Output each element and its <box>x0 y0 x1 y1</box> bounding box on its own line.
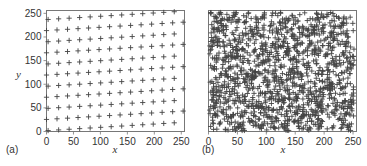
x-tick-label: 150 <box>119 136 136 147</box>
panel-a-y-ticks: 050100150200250 <box>25 8 47 137</box>
x-tick-label: 0 <box>44 136 50 147</box>
x-tick-label: 250 <box>345 136 362 147</box>
x-tick-label: 200 <box>316 136 333 147</box>
panel-a-label: (a) <box>6 144 18 155</box>
x-tick-label: 100 <box>92 136 109 147</box>
y-tick-label: 50 <box>30 102 42 113</box>
panel-a-x-axis-label: x <box>112 143 118 155</box>
panel-b-x-axis-label: x <box>280 143 286 155</box>
y-tick-label: 0 <box>36 126 42 137</box>
x-tick-label: 250 <box>173 136 190 147</box>
x-tick-label: 50 <box>68 136 80 147</box>
panel-b-scatter-random: 050100150200250 x (b) <box>202 10 362 155</box>
panel-a-y-axis-label: y <box>15 68 21 80</box>
y-tick-label: 250 <box>25 8 42 19</box>
y-tick-label: 100 <box>25 79 42 90</box>
y-tick-label: 150 <box>25 55 42 66</box>
panel-b-points <box>207 10 357 133</box>
panel-a-scatter-lattice: 050100150200250 050100150200250 y x (a) <box>6 8 190 155</box>
x-tick-label: 150 <box>287 136 304 147</box>
x-tick-label: 50 <box>232 136 244 147</box>
x-tick-label: 100 <box>258 136 275 147</box>
x-tick-label: 200 <box>146 136 163 147</box>
panel-a-points <box>44 9 186 133</box>
panel-b-label: (b) <box>202 144 214 155</box>
figure: 050100150200250 050100150200250 y x (a) … <box>0 0 367 166</box>
y-tick-label: 200 <box>25 31 42 42</box>
